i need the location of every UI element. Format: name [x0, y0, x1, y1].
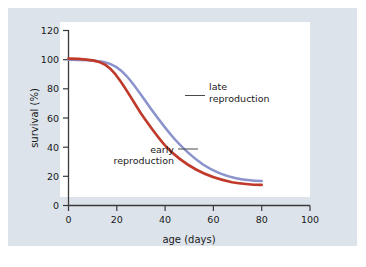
- annotation-late-reproduction: late reproduction: [185, 81, 270, 104]
- x-tick-label-0: 0: [65, 214, 71, 225]
- x-tick-label-40: 40: [159, 214, 171, 225]
- y-tick-label-40: 40: [47, 142, 59, 153]
- y-tick-label-100: 100: [41, 54, 59, 65]
- late-reproduction-label-line2: reproduction: [209, 93, 270, 104]
- x-tick-label-80: 80: [256, 214, 268, 225]
- late-reproduction-label-line1: late: [209, 81, 227, 92]
- y-tick-label-20: 20: [47, 171, 59, 182]
- x-tick-label-20: 20: [111, 214, 123, 225]
- y-tick-label-60: 60: [47, 113, 59, 124]
- early-reproduction-label-line1: early: [150, 144, 174, 155]
- x-axis-ticks: [69, 206, 311, 212]
- y-axis-ticks: [63, 31, 69, 206]
- x-axis-title: age (days): [162, 234, 215, 245]
- y-axis-tick-labels: 120 100 80 60 40 20 0: [41, 25, 59, 211]
- y-axis-title: survival (%): [29, 88, 40, 148]
- y-tick-label-80: 80: [47, 83, 59, 94]
- y-tick-label-0: 0: [53, 200, 59, 211]
- x-axis-tick-labels: 0 20 40 60 80 100: [65, 214, 319, 225]
- y-tick-label-120: 120: [41, 25, 59, 36]
- x-tick-label-100: 100: [301, 214, 319, 225]
- early-reproduction-label-line2: reproduction: [113, 155, 174, 166]
- survival-curve-figure: 120 100 80 60 40 20 0 0 20 40 60 80 100: [0, 0, 366, 267]
- chart-canvas: 120 100 80 60 40 20 0 0 20 40 60 80 100: [0, 0, 366, 267]
- axes-group: [69, 30, 311, 206]
- x-tick-label-60: 60: [207, 214, 219, 225]
